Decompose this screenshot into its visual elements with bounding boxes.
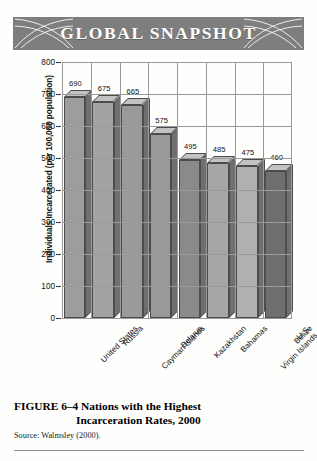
bar-front-face xyxy=(265,171,286,318)
banner-title: GLOBAL SNAPSHOT xyxy=(13,17,304,50)
gridline-vertical xyxy=(263,62,264,318)
gridline-vertical xyxy=(91,62,92,318)
bar: 485 xyxy=(207,163,228,318)
gridline-vertical xyxy=(120,62,121,318)
bar-side-face xyxy=(286,164,293,318)
gridline-horizontal xyxy=(62,318,292,319)
y-axis-tick-mark xyxy=(56,94,61,95)
y-axis-tick-label: 400 xyxy=(41,186,55,195)
y-axis-tick-label: 800 xyxy=(41,58,55,67)
bar-value-label: 690 xyxy=(69,79,82,88)
bar-value-label: 485 xyxy=(213,145,226,154)
x-axis-category-label: Russia xyxy=(121,324,145,348)
y-axis-tick-label: 700 xyxy=(41,90,55,99)
bar: 495 xyxy=(179,160,200,318)
source-note: Source: Walmsley (2000). xyxy=(14,431,101,440)
gridline-vertical xyxy=(235,62,236,318)
bar: 575 xyxy=(150,134,171,318)
y-axis-tick-mark xyxy=(56,190,61,191)
bar-front-face xyxy=(64,97,85,318)
y-axis-tick-label: 500 xyxy=(41,154,55,163)
gridline-vertical xyxy=(62,62,63,318)
caption-line-2: Incarceration Rates, 2000 xyxy=(76,414,306,428)
y-axis-tick-mark xyxy=(56,254,61,255)
bar: 690 xyxy=(64,97,85,318)
y-axis-tick-label: 300 xyxy=(41,218,55,227)
bar-front-face xyxy=(179,160,200,318)
plot-area: 690675665575495485475460 010020030040050… xyxy=(62,62,292,318)
y-axis-tick-label: 100 xyxy=(41,282,55,291)
figure-caption: FIGURE 6–4 Nations with the Highest Inca… xyxy=(14,400,306,427)
figure-number: FIGURE 6–4 xyxy=(14,400,78,412)
bottom-divider xyxy=(14,450,304,451)
gridline-vertical xyxy=(206,62,207,318)
y-axis-tick-label: 0 xyxy=(50,314,55,323)
figure-page: GLOBAL SNAPSHOT Individuals Incarcerated… xyxy=(0,0,317,461)
bar-front-face xyxy=(150,134,171,318)
x-axis-category-label: Belarus xyxy=(179,324,205,350)
y-axis-tick-mark xyxy=(56,286,61,287)
bar-front-face xyxy=(236,166,257,318)
y-axis-tick-mark xyxy=(56,126,61,127)
gridline-vertical xyxy=(148,62,149,318)
bar-value-label: 495 xyxy=(184,142,197,151)
bar: 460 xyxy=(265,171,286,318)
bar-value-label: 675 xyxy=(98,84,111,93)
gridline-vertical xyxy=(291,62,292,318)
bar-chart: Individuals Incarcerated (per 100,000 po… xyxy=(0,52,317,390)
bar-value-label: 575 xyxy=(155,116,168,125)
y-axis-tick-mark xyxy=(56,222,61,223)
bar-front-face xyxy=(207,163,228,318)
gridline-vertical xyxy=(177,62,178,318)
global-snapshot-banner: GLOBAL SNAPSHOT xyxy=(13,17,304,50)
bar-value-label: 475 xyxy=(242,148,255,157)
y-axis-tick-label: 200 xyxy=(41,250,55,259)
y-axis-tick-mark xyxy=(56,158,61,159)
y-axis-tick-label: 600 xyxy=(41,122,55,131)
bar: 475 xyxy=(236,166,257,318)
caption-line-1: Nations with the Highest xyxy=(81,400,201,412)
y-axis-tick-mark xyxy=(56,62,61,63)
x-axis-category-labels: United StatesRussiaCayman IslandsBelarus… xyxy=(62,324,298,390)
x-axis-label-line: Kazakhstan xyxy=(212,324,248,360)
y-axis-tick-mark xyxy=(56,318,61,319)
